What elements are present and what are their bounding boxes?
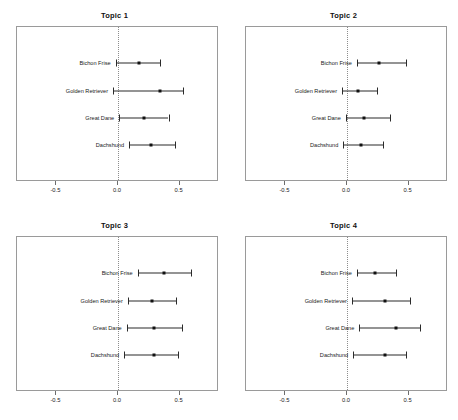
x-axis-tick	[55, 391, 56, 395]
point-estimate-marker	[152, 327, 155, 330]
estimate-row: Bichon Frise	[246, 57, 446, 69]
ci-upper-cap	[410, 298, 411, 305]
ci-lower-cap	[357, 270, 358, 277]
estimate-row: Great Dane	[17, 112, 217, 124]
estimate-row: Great Dane	[17, 322, 217, 334]
plot-area: Bichon FriseGolden RetrieverGreat DaneDa…	[245, 236, 447, 391]
zero-reference-line	[347, 27, 348, 180]
panel-topic-1: Topic 1Bichon FriseGolden RetrieverGreat…	[0, 0, 229, 210]
category-label: Dachshund	[91, 352, 119, 358]
panel-topic-3: Topic 3Bichon FriseGolden RetrieverGreat…	[0, 210, 229, 420]
estimate-row: Bichon Frise	[17, 57, 217, 69]
category-label: Golden Retriever	[66, 88, 108, 94]
estimate-row: Golden Retriever	[17, 295, 217, 307]
category-label: Golden Retriever	[295, 88, 337, 94]
x-axis-tick	[117, 391, 118, 395]
estimate-row: Great Dane	[246, 322, 446, 334]
point-estimate-marker	[152, 354, 155, 357]
estimate-row: Dachshund	[246, 139, 446, 151]
point-estimate-marker	[357, 90, 360, 93]
ci-lower-cap	[346, 115, 347, 122]
ci-lower-cap	[342, 88, 343, 95]
ci-lower-cap	[116, 60, 117, 67]
category-label: Dachshund	[320, 352, 348, 358]
panel-topic-4: Topic 4Bichon FriseGolden RetrieverGreat…	[229, 210, 458, 420]
confidence-interval-line	[113, 91, 183, 92]
ci-lower-cap	[343, 142, 344, 149]
x-axis-tick-label: -0.5	[279, 187, 289, 193]
ci-lower-cap	[128, 298, 129, 305]
x-axis-tick-label: 0.5	[404, 397, 412, 403]
category-label: Bichon Frise	[321, 270, 352, 276]
point-estimate-marker	[363, 117, 366, 120]
ci-lower-cap	[124, 352, 125, 359]
topic-plot-grid: Topic 1Bichon FriseGolden RetrieverGreat…	[0, 0, 458, 420]
ci-lower-cap	[352, 298, 353, 305]
point-estimate-marker	[359, 144, 362, 147]
confidence-interval-line	[352, 301, 410, 302]
x-axis-tick-label: 0.5	[175, 187, 183, 193]
x-axis-tick	[284, 181, 285, 185]
ci-lower-cap	[357, 60, 358, 67]
x-axis-tick	[179, 391, 180, 395]
panel-title: Topic 2	[229, 11, 458, 20]
ci-lower-cap	[119, 115, 120, 122]
ci-upper-cap	[183, 88, 184, 95]
zero-reference-line	[118, 237, 119, 390]
point-estimate-marker	[137, 62, 140, 65]
estimate-row: Dachshund	[17, 349, 217, 361]
ci-upper-cap	[176, 298, 177, 305]
plot-area: Bichon FriseGolden RetrieverGreat DaneDa…	[245, 26, 447, 181]
point-estimate-marker	[384, 300, 387, 303]
panel-title: Topic 1	[0, 11, 229, 20]
confidence-interval-line	[359, 328, 419, 329]
plot-area: Bichon FriseGolden RetrieverGreat DaneDa…	[16, 236, 218, 391]
x-axis-tick	[408, 181, 409, 185]
ci-upper-cap	[420, 325, 421, 332]
ci-lower-cap	[353, 352, 354, 359]
x-axis-tick	[179, 181, 180, 185]
ci-upper-cap	[406, 60, 407, 67]
ci-upper-cap	[406, 352, 407, 359]
estimate-row: Bichon Frise	[17, 267, 217, 279]
confidence-interval-line	[353, 355, 406, 356]
plot-area: Bichon FriseGolden RetrieverGreat DaneDa…	[16, 26, 218, 181]
confidence-interval-line	[346, 118, 390, 119]
category-label: Golden Retriever	[305, 298, 347, 304]
x-axis-tick-label: -0.5	[279, 397, 289, 403]
ci-upper-cap	[175, 142, 176, 149]
category-label: Great Dane	[85, 115, 114, 121]
point-estimate-marker	[378, 62, 381, 65]
x-axis-tick-label: -0.5	[50, 187, 60, 193]
estimate-row: Dachshund	[17, 139, 217, 151]
ci-upper-cap	[178, 352, 179, 359]
category-label: Dachshund	[96, 142, 124, 148]
confidence-interval-line	[357, 63, 406, 64]
category-label: Golden Retriever	[81, 298, 123, 304]
estimate-row: Golden Retriever	[17, 85, 217, 97]
ci-lower-cap	[138, 270, 139, 277]
ci-upper-cap	[191, 270, 192, 277]
x-axis-tick-label: 0.0	[342, 187, 350, 193]
ci-upper-cap	[182, 325, 183, 332]
ci-upper-cap	[383, 142, 384, 149]
x-axis-tick	[408, 391, 409, 395]
estimate-row: Golden Retriever	[246, 85, 446, 97]
point-estimate-marker	[142, 117, 145, 120]
x-axis-tick-label: 0.0	[113, 397, 121, 403]
x-axis-tick	[55, 181, 56, 185]
ci-upper-cap	[160, 60, 161, 67]
ci-lower-cap	[129, 142, 130, 149]
category-label: Dachshund	[310, 142, 338, 148]
point-estimate-marker	[151, 300, 154, 303]
x-axis-tick-label: 0.5	[175, 397, 183, 403]
category-label: Great Dane	[325, 325, 354, 331]
x-axis-tick	[346, 391, 347, 395]
ci-upper-cap	[169, 115, 170, 122]
panel-title: Topic 4	[229, 221, 458, 230]
ci-upper-cap	[396, 270, 397, 277]
category-label: Bichon Frise	[79, 60, 110, 66]
zero-reference-line	[118, 27, 119, 180]
point-estimate-marker	[158, 90, 161, 93]
category-label: Bichon Frise	[321, 60, 352, 66]
